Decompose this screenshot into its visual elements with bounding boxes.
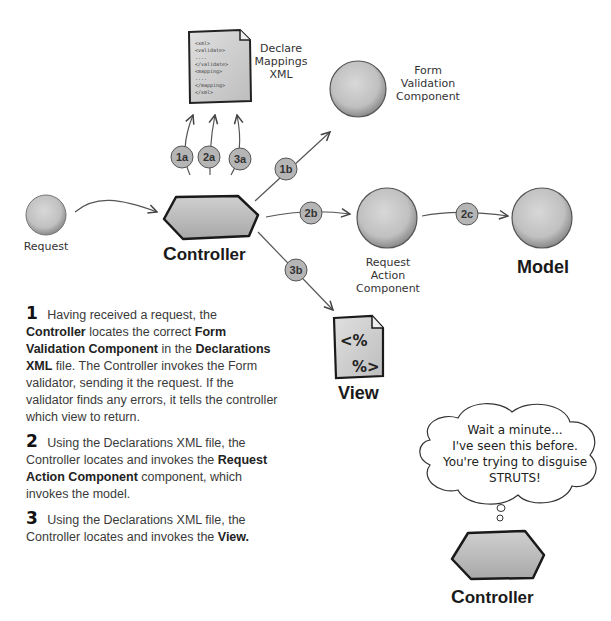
steps-list: 1 Having received a request, the Control… [26,305,278,546]
request-action-component-node [357,188,417,248]
bubble-line: STRUTS! [440,470,590,486]
thought-bubble-text: Wait a minute... I've seen this before. … [440,422,590,486]
svg-text:2b: 2b [305,207,318,219]
xml-content-line: <mapping> [195,68,222,75]
xml-content-line: <validate> [195,47,225,53]
form-validation-component-node [330,61,386,117]
view-label: View [338,383,379,404]
label-line: Declare [251,42,311,55]
badge-1b: 1b [275,158,297,180]
request-action-label: Request Action Component [352,256,424,295]
step-text: Using the Declarations XML file, the Con… [26,513,246,544]
xml-content-line: <xml> [195,40,210,46]
xml-content-line: .... [195,54,207,60]
xml-content-line: </validate> [195,61,228,67]
bottom-controller-node [452,531,544,579]
controller-label: Controller [163,243,246,265]
step-emphasis: Controller [26,325,86,339]
xml-content-line: </xml> [195,89,213,95]
xml-document-icon: <xml><validate>....</validate><mapping>.… [189,30,251,103]
svg-text:2c: 2c [461,208,473,220]
label-rest: ontroller [177,245,246,264]
step-text: file. The Controller invokes the Form va… [26,359,278,424]
label-line: Mappings [251,55,311,68]
step-number: 1 [26,303,38,323]
controller-node [164,196,258,239]
form-validation-label: Form Validation Component [393,64,463,103]
svg-text:1b: 1b [280,163,293,175]
step-emphasis: View. [218,530,249,544]
badge-2a: 2a [198,146,220,168]
label-line: XML [251,68,311,81]
svg-text:<%: <% [340,332,368,350]
arrow-request-to-controller [75,200,157,212]
model-node [512,188,572,248]
step-number: 2 [26,431,38,451]
connectors [75,115,508,310]
label-line: Component [393,90,463,103]
request-label: Request [18,240,74,253]
badge-2b: 2b [300,202,322,224]
step-3-text: 3 Using the Declarations XML file, the C… [26,510,278,546]
xml-content-line: .... [195,75,207,81]
svg-text:%>: %> [352,358,380,376]
label-line: Validation [393,77,463,90]
label-line: Form [393,64,463,77]
svg-text:3a: 3a [234,153,247,165]
svg-text:3b: 3b [290,264,303,276]
bubble-line: You're trying to disguise [440,454,590,470]
step-number: 3 [26,508,38,528]
label-line: Request [352,256,424,269]
label-line: Component [352,282,424,295]
step-1-text: 1 Having received a request, the Control… [26,305,278,426]
bubble-line: Wait a minute... [440,422,590,438]
xml-content-line: </mapping> [195,82,225,89]
label-initial: C [163,243,177,264]
view-document-icon: <% %> [334,316,383,378]
svg-text:1a: 1a [176,151,189,163]
step-text: locates the correct [86,325,195,339]
svg-text:2a: 2a [203,151,216,163]
badge-2c: 2c [456,203,478,225]
request-node [26,195,66,235]
step-text: Having received a request, the [44,308,217,322]
label-rest: ontroller [465,588,534,607]
model-label: Model [517,257,569,278]
step-2-text: 2 Using the Declarations XML file, the C… [26,433,278,503]
xml-document-label: Declare Mappings XML [251,42,311,81]
badge-3a: 3a [229,148,251,170]
badge-1a: 1a [171,146,193,168]
bottom-controller-label: Controller [451,586,534,608]
label-initial: C [451,586,465,607]
step-text: in the [158,342,196,356]
step-text: Using the Declarations XML file, the Con… [26,436,246,467]
bubble-line: I've seen this before. [440,438,590,454]
label-line: Action [352,269,424,282]
badge-3b: 3b [285,259,307,281]
